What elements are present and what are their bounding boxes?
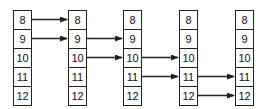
cell: 12	[124, 87, 141, 105]
array-column-5: 8 9 10 11 12	[235, 10, 254, 106]
cell: 9	[14, 30, 31, 49]
cell: 9	[124, 30, 141, 49]
array-column-3: 8 9 10 11 12	[123, 10, 142, 106]
cell: 11	[69, 68, 86, 87]
cell: 10	[236, 49, 253, 68]
cell: 9	[69, 30, 86, 49]
cell: 12	[69, 87, 86, 105]
cell: 8	[236, 11, 253, 30]
cell: 12	[236, 87, 253, 105]
cell: 10	[180, 49, 197, 68]
cell: 10	[69, 49, 86, 68]
cell: 11	[14, 68, 31, 87]
cell: 12	[180, 87, 197, 105]
cell: 11	[180, 68, 197, 87]
cell: 10	[124, 49, 141, 68]
cell: 9	[180, 30, 197, 49]
cell: 10	[14, 49, 31, 68]
cell: 12	[14, 87, 31, 105]
cell: 9	[236, 30, 253, 49]
array-column-2: 8 9 10 11 12	[68, 10, 87, 106]
cell: 11	[236, 68, 253, 87]
cell: 8	[124, 11, 141, 30]
array-column-4: 8 9 10 11 12	[179, 10, 198, 106]
cell: 11	[124, 68, 141, 87]
cell: 8	[14, 11, 31, 30]
array-column-1: 8 9 10 11 12	[13, 10, 32, 106]
cell: 8	[180, 11, 197, 30]
cell: 8	[69, 11, 86, 30]
